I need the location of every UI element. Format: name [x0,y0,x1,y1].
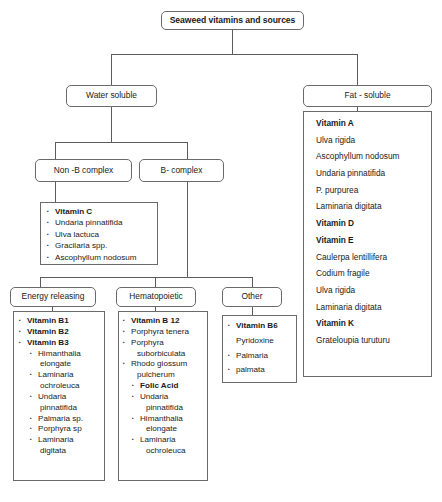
list-item: Himanthalia [14,350,104,358]
list-item: Undaria pinnatifida [304,169,431,177]
hematopoietic-source-list: Vitamin B 12Porphyra teneraPorphyrasubor… [119,312,207,462]
connector-level3-bar [40,277,252,278]
connector-hematopoietic-down [155,277,156,287]
node-other[interactable]: Other [222,287,282,307]
list-item: Himanthalia [119,415,207,423]
node-non-b-complex-label: Non -B complex [54,166,114,176]
connector-fat-soluble-down [357,54,358,85]
node-b-complex[interactable]: B- complex [139,159,224,182]
panel-vitamin-c-sources: Vitamin CUndaria pinnatifidaUlva lactuca… [40,202,158,265]
list-item: Ascophyllum nodosum [41,254,157,262]
fat-soluble-source-list: Vitamin AUlva rigidaAscophyllum nodosumU… [304,112,431,350]
node-water-soluble[interactable]: Water soluble [66,85,157,107]
list-item: Palmaria sp. [14,415,104,423]
list-item: Laminaria [14,436,104,444]
list-item: Grateloupia turuturu [304,336,431,344]
list-item: Ulva lactuca [41,231,157,239]
connector-non-b-complex-down [55,142,56,159]
connector-level2-bar [55,142,187,143]
connector-root-down [232,30,233,54]
panel-other-sources: Vitamin B6PyridoxinePalmariapalmata [222,315,297,383]
list-item: Rhodo giossum [119,360,207,368]
list-item: Porphyra tenera [119,328,207,336]
node-other-label: Other [242,292,263,302]
list-item: P. purpurea [304,186,431,194]
connector-b-complex-to-bar [187,182,188,277]
connector-water-soluble-down [111,54,112,85]
list-item: Folic Acid [119,382,207,390]
list-item: Vitamin B 12 [119,317,207,325]
node-fat-soluble-label: Fat - soluble [344,91,390,101]
node-b-complex-label: B- complex [161,166,203,176]
vitamin-c-source-list: Vitamin CUndaria pinnatifidaUlva lactuca… [41,203,157,265]
list-item: Palmaria [223,352,296,360]
list-item: Vitamin B1 [14,317,104,325]
connector-non-b-to-vitamin-c [55,182,56,202]
list-item: Undaria pinnatifida [41,219,157,227]
list-item: Porphyra [119,339,207,347]
list-item: ochroleuca [14,382,104,390]
list-item: suborbiculata [119,350,207,358]
list-item: Laminaria digitata [304,303,431,311]
node-fat-soluble[interactable]: Fat - soluble [303,85,432,107]
list-item: Vitamin C [41,208,157,216]
list-item: Laminaria digitata [304,202,431,210]
connector-water-soluble-to-bar [111,107,112,142]
list-item: Laminaria [14,371,104,379]
diagram-canvas: Seaweed vitamins and sources Water solub… [0,0,442,502]
list-item: ochroleuca [119,447,207,455]
list-item: digitata [14,447,104,455]
list-item: Vitamin A [304,119,431,127]
list-item: Vitamin B2 [14,328,104,336]
node-energy-releasing[interactable]: Energy releasing [10,287,96,307]
list-item: Vitamin K [304,319,431,327]
list-item: Ascophyllum nodosum [304,152,431,160]
node-energy-releasing-label: Energy releasing [22,292,85,302]
node-non-b-complex[interactable]: Non -B complex [35,159,132,182]
energy-releasing-source-list: Vitamin B1Vitamin B2Vitamin B3Himanthali… [14,312,104,462]
list-item: elongate [14,360,104,368]
list-item: Porphyra sp [14,425,104,433]
list-item: Undaria [14,393,104,401]
list-item: pinnatifida [14,404,104,412]
other-source-list: Vitamin B6PyridoxinePalmariapalmata [223,316,296,383]
panel-fat-soluble-sources: Vitamin AUlva rigidaAscophyllum nodosumU… [303,111,432,377]
panel-hematopoietic-sources: Vitamin B 12Porphyra teneraPorphyrasubor… [118,311,208,481]
list-item: palmata [223,366,296,374]
list-item: Ulva rigida [304,286,431,294]
node-hematopoietic[interactable]: Hematopoietic [116,287,196,307]
list-item: Undaria [119,393,207,401]
list-item: Vitamin B6 [223,322,296,330]
connector-level1-bar [111,54,358,55]
list-item: Vitamin B3 [14,339,104,347]
list-item: Vitamin E [304,236,431,244]
list-item: Caulerpa lentillifera [304,253,431,261]
node-water-soluble-label: Water soluble [86,91,137,101]
node-hematopoietic-label: Hematopoietic [129,292,183,302]
list-item: pulcherum [119,371,207,379]
connector-other-down [252,277,253,287]
list-item: pinnatifida [119,404,207,412]
connector-other-header-to-list [252,307,253,315]
node-root[interactable]: Seaweed vitamins and sources [161,11,304,30]
connector-b-complex-down [187,142,188,159]
list-item: elongate [119,425,207,433]
list-item: Pyridoxine [223,337,296,345]
connector-energy-releasing-down [40,277,41,287]
list-item: Vitamin D [304,219,431,227]
list-item: Laminaria [119,436,207,444]
list-item: Gracilaria spp. [41,242,157,250]
list-item: Ulva rigida [304,136,431,144]
panel-energy-releasing-sources: Vitamin B1Vitamin B2Vitamin B3Himanthali… [13,311,105,481]
node-root-label: Seaweed vitamins and sources [170,16,296,26]
list-item: Codium fragile [304,269,431,277]
